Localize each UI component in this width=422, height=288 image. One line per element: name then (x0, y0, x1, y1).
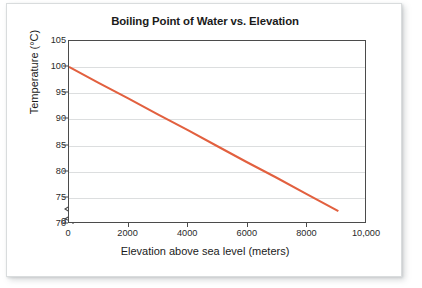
screenshot-root: Boiling Point of Water vs. Elevation Tem… (0, 0, 422, 288)
x-axis-tick-label: 10,000 (352, 228, 380, 238)
series-line (69, 67, 338, 211)
plot-inner (69, 41, 365, 222)
x-axis-tick-label: 0 (65, 228, 70, 238)
x-axis-tick-mark (306, 223, 307, 227)
data-series-line (69, 41, 365, 222)
y-axis-tick-labels: 707580859095100105 (37, 40, 66, 223)
y-axis-zero-label: 0 (51, 216, 66, 226)
x-axis-title: Elevation above sea level (meters) (7, 245, 403, 257)
x-axis-tick-label: 4000 (177, 228, 197, 238)
x-axis-tick-mark (187, 223, 188, 227)
chart-card: Boiling Point of Water vs. Elevation Tem… (6, 3, 402, 277)
chart-title: Boiling Point of Water vs. Elevation (7, 15, 403, 27)
x-axis-tick-label: 2000 (117, 228, 137, 238)
y-axis-tick-label: 105 (40, 35, 66, 45)
x-axis-tick-mark (128, 223, 129, 227)
x-axis-tick-label: 6000 (237, 228, 257, 238)
x-axis-tick-label: 8000 (296, 228, 316, 238)
plot-area (68, 40, 366, 223)
x-axis-tick-mark (247, 223, 248, 227)
